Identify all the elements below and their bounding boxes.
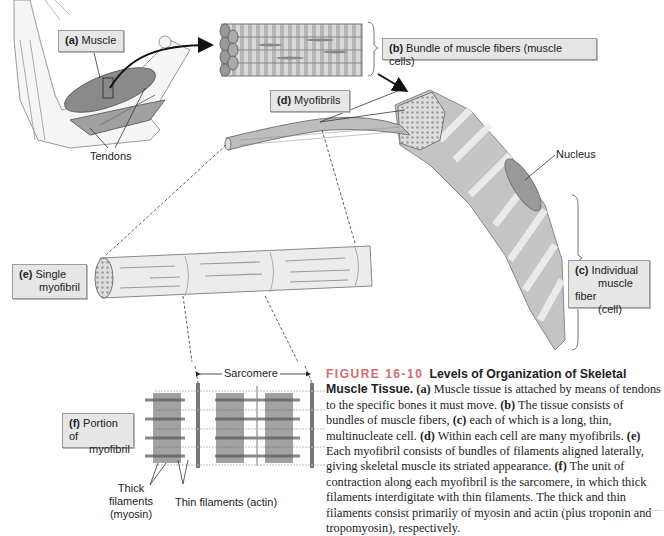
label-letter: (b) [389, 42, 403, 54]
arm-illustration [14, 0, 190, 148]
annotation-nucleus: Nucleus [556, 148, 596, 161]
label-b-bundle: (b) Bundle of muscle fibers (muscle cell… [382, 38, 597, 60]
caption-letter: (c) [453, 413, 467, 427]
zoom-arrow-b-to-c [378, 74, 405, 90]
label-letter: (c) [575, 264, 588, 276]
label-text: muscle fiber [575, 277, 633, 302]
bracket-b [368, 22, 378, 76]
annotation-tendons: Tendons [90, 150, 132, 163]
label-text: Single [36, 268, 67, 280]
label-text: (cell) [575, 303, 622, 315]
nucleus-pointer [525, 155, 555, 180]
annotation-text: (myosin) [110, 508, 152, 520]
annotation-thin-filaments: Thin filaments (actin) [175, 496, 277, 509]
annotation-text: Thick filaments [109, 482, 153, 507]
caption-divider [326, 510, 662, 511]
label-letter: (d) [277, 94, 291, 106]
single-myofibril [95, 246, 372, 298]
label-text: Myofibrils [294, 94, 340, 106]
label-letter: (f) [69, 417, 80, 429]
caption-letter: (d) [420, 429, 435, 443]
annotation-thick-filaments: Thick filaments (myosin) [96, 482, 166, 521]
zoom-guide-lines [105, 130, 355, 362]
caption-letter: (e) [627, 429, 641, 443]
label-text: myofibril [69, 443, 130, 455]
label-letter: (e) [19, 268, 32, 280]
label-text: Muscle [82, 34, 117, 46]
label-text: myofibril [19, 281, 80, 293]
label-f-portion-of-myofibril: (f) Portion of myofibril [62, 413, 134, 448]
muscle-fiber-bundle [220, 24, 362, 76]
annotation-sarcomere: Sarcomere [222, 367, 280, 380]
sarcomere-diagram [145, 366, 325, 485]
figure-number: FIGURE 16-10 [326, 367, 423, 381]
label-letter: (a) [65, 34, 78, 46]
label-text: Individual [592, 264, 638, 276]
caption-letter: (a) [416, 382, 430, 396]
label-c-muscle-fiber: (c) Individual muscle fiber (cell) [568, 260, 650, 308]
caption-letter: (f) [554, 459, 566, 473]
caption-letter: (b) [500, 398, 515, 412]
label-a-muscle: (a) Muscle [58, 30, 124, 52]
label-e-single-myofibril: (e) Single myofibril [12, 264, 87, 299]
individual-muscle-fiber [395, 90, 565, 350]
label-d-myofibrils: (d) Myofibrils [270, 90, 350, 112]
caption-text: Within each cell are many myofibrils. [435, 429, 627, 443]
